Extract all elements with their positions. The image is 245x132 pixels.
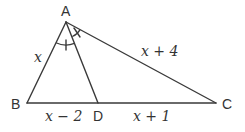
segment-label-ac: x + 4 <box>141 43 178 59</box>
segment-ad-bisector <box>66 22 98 103</box>
segment-label-bd: x − 2 <box>45 108 83 124</box>
vertex-label-a: A <box>61 3 71 19</box>
vertex-label-b: B <box>11 96 20 112</box>
segment-ac <box>66 22 216 103</box>
vertex-label-c: C <box>222 96 232 112</box>
segment-label-ab: x <box>34 49 42 65</box>
triangle-diagram: A B D C x x + 4 x − 2 x + 1 <box>0 0 245 132</box>
segment-label-dc: x + 1 <box>133 108 170 124</box>
angle-arc-bad <box>56 43 74 45</box>
vertex-label-d: D <box>93 108 103 124</box>
segment-ab <box>27 22 66 103</box>
